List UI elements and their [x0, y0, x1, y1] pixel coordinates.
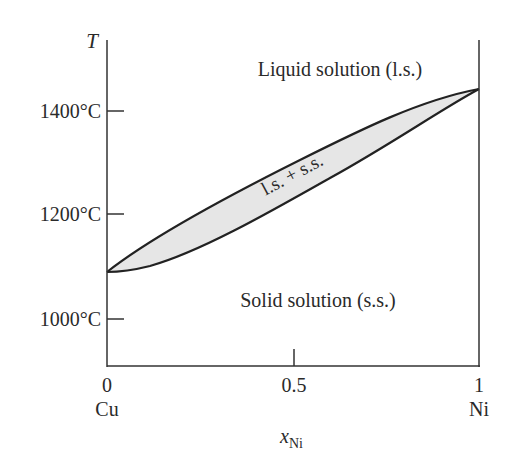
xtick-label-0: 0: [102, 374, 112, 396]
ytick-label-1400: 1400°C: [40, 100, 101, 122]
x-axis-label-main: x: [279, 425, 289, 447]
xtick-label-05: 0.5: [282, 374, 307, 396]
x-axis-label: xNi: [279, 425, 303, 451]
phase-diagram: T 1400°C 1200°C 1000°C 0 Cu 0.5 1 Ni xNi…: [0, 0, 511, 476]
x-element-ni: Ni: [469, 398, 489, 420]
liquid-region-label: Liquid solution (l.s.): [258, 58, 422, 81]
ytick-label-1000: 1000°C: [40, 308, 101, 330]
y-axis-label: T: [86, 29, 99, 53]
xtick-label-1: 1: [474, 374, 484, 396]
ytick-label-1200: 1200°C: [40, 203, 101, 225]
x-element-cu: Cu: [95, 398, 118, 420]
x-axis-label-sub: Ni: [289, 436, 303, 451]
solid-region-label: Solid solution (s.s.): [240, 289, 396, 312]
